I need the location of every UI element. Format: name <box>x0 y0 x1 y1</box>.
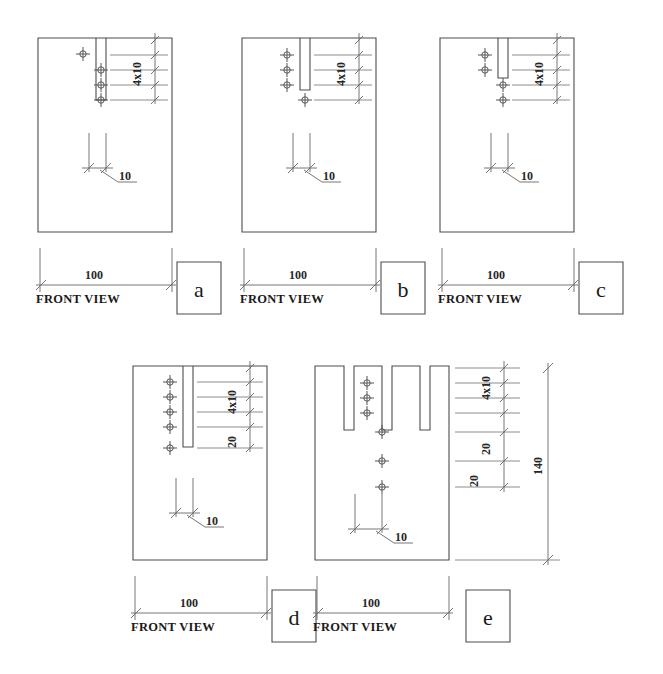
figure-e: 4x10 20 20 140 10 100 FRONT VIEW <box>313 361 560 642</box>
figure-b-slot-label: 10 <box>323 169 335 183</box>
hole-mark <box>163 405 177 419</box>
figure-d-pitch-dimension <box>246 361 254 452</box>
figure-b-width-dimension <box>240 248 380 292</box>
hole-mark <box>496 78 510 92</box>
figure-c-pitch-dimension <box>553 33 561 104</box>
figure-a-holes <box>76 47 108 107</box>
hole-mark <box>360 391 374 405</box>
figure-e-slot-label: 10 <box>395 530 407 544</box>
figure-c-slot-label: 10 <box>521 169 533 183</box>
hole-mark <box>360 406 374 420</box>
figure-a-slot-label: 10 <box>119 169 131 183</box>
figure-b-width-label: 100 <box>289 268 307 282</box>
hole-mark <box>496 93 510 107</box>
hole-mark <box>478 63 492 77</box>
figure-d-width-dimension <box>131 576 271 620</box>
hole-mark <box>163 420 177 434</box>
figure-b-outline <box>242 38 376 232</box>
figure-b-key-letter: b <box>398 277 409 302</box>
hole-mark <box>163 390 177 404</box>
figure-c-pitch-label: 4x10 <box>532 62 546 86</box>
figure-a: 4x10 10 100 FRONT VIEW a <box>36 33 221 314</box>
figure-c-slot <box>498 38 508 78</box>
drawing-sheet: 4x10 10 100 FRONT VIEW a <box>0 0 663 674</box>
figure-c-width-label: 100 <box>487 268 505 282</box>
figure-d-dim20-label: 20 <box>225 436 239 448</box>
figure-d-view-label: FRONT VIEW <box>131 620 215 634</box>
hole-mark <box>298 93 312 107</box>
hole-mark <box>280 48 294 62</box>
hole-mark <box>375 480 389 494</box>
figure-d-outline <box>133 366 267 560</box>
technical-drawing-svg: 4x10 10 100 FRONT VIEW a <box>0 0 663 674</box>
figure-a-view-label: FRONT VIEW <box>36 292 120 306</box>
figure-d-pitch-label: 4x10 <box>225 390 239 414</box>
figure-e-holes <box>360 376 389 494</box>
figure-e-view-label: FRONT VIEW <box>313 620 397 634</box>
hole-mark <box>163 441 177 455</box>
figure-d-slot <box>183 366 193 447</box>
figure-c-key-letter: c <box>596 277 606 302</box>
figure-a-outline <box>38 38 172 232</box>
hole-mark <box>478 48 492 62</box>
figure-b-pitch-label: 4x10 <box>334 62 348 86</box>
figure-e-key-letter: e <box>483 605 493 630</box>
figure-d-holes <box>163 375 177 455</box>
figure-a-key-letter: a <box>194 277 204 302</box>
figure-c: 4x10 10 100 FRONT VIEW c <box>438 33 623 314</box>
figure-b-view-label: FRONT VIEW <box>240 292 324 306</box>
figure-e-pitch-dimension <box>500 361 508 492</box>
figure-a-pitch-label: 4x10 <box>130 62 144 86</box>
hole-mark <box>280 63 294 77</box>
hole-mark <box>375 454 389 468</box>
hole-mark <box>163 375 177 389</box>
figure-d: 4x10 20 10 100 FRONT VIEW d <box>131 361 316 642</box>
figure-c-width-dimension <box>438 248 578 292</box>
figure-e-width-dimension <box>313 576 453 620</box>
figure-b: 4x10 10 100 FRONT VIEW b <box>240 33 425 314</box>
figure-d-width-label: 100 <box>180 596 198 610</box>
figure-c-outline <box>440 38 574 232</box>
figure-a-width-dimension <box>36 248 176 292</box>
figure-d-slot-label: 10 <box>206 514 218 528</box>
hole-mark <box>76 47 90 61</box>
figure-e-width-label: 100 <box>362 596 380 610</box>
hole-mark <box>375 425 389 439</box>
figure-e-overall-label: 140 <box>531 457 545 475</box>
figure-e-dim20-upper-label: 20 <box>479 443 493 455</box>
figure-e-dim20-lower-label: 20 <box>467 475 481 487</box>
figure-c-view-label: FRONT VIEW <box>438 292 522 306</box>
figure-b-holes <box>280 48 312 107</box>
figure-b-pitch-dimension <box>355 33 363 104</box>
figure-a-pitch-dimension <box>151 33 159 104</box>
figure-a-width-label: 100 <box>85 268 103 282</box>
figure-e-pitch-label: 4x10 <box>479 376 493 400</box>
figure-d-key-letter: d <box>289 605 300 630</box>
hole-mark <box>280 78 294 92</box>
hole-mark <box>360 376 374 390</box>
figure-b-slot <box>300 38 310 90</box>
